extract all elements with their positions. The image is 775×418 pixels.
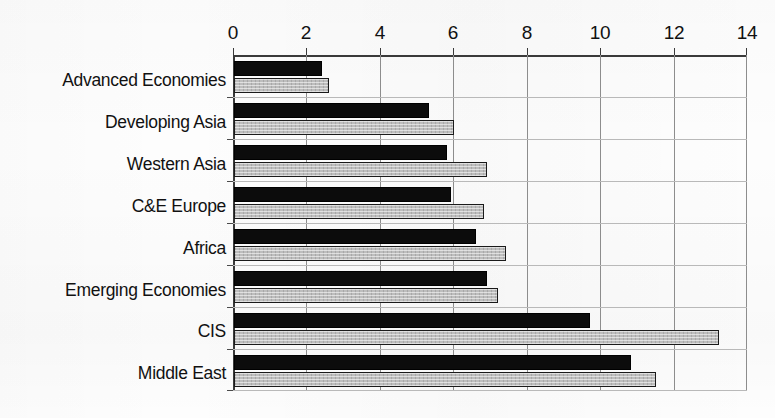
x-axis-line bbox=[233, 55, 747, 57]
row-separator bbox=[233, 307, 747, 308]
y-category-label: CIS bbox=[198, 321, 226, 341]
bar-2008-c-e-europe bbox=[234, 204, 484, 219]
bar-2007-cis bbox=[234, 313, 590, 328]
y-category-label: Emerging Economies bbox=[65, 280, 226, 300]
bar-2007-advanced-economies bbox=[234, 61, 322, 76]
x-tick-label: 12 bbox=[654, 22, 694, 44]
x-tick-label: 2 bbox=[286, 22, 326, 44]
y-tick-mark bbox=[227, 181, 233, 182]
y-axis-category-labels: Advanced Economies Developing Asia Weste… bbox=[0, 0, 226, 418]
bar-2008-emerging-economies bbox=[234, 288, 498, 303]
x-tick-mark bbox=[674, 48, 675, 55]
x-tick-mark bbox=[306, 48, 307, 55]
row-separator bbox=[233, 390, 747, 391]
bar-2007-western-asia bbox=[234, 145, 447, 160]
bar-2008-western-asia bbox=[234, 162, 487, 177]
y-tick-mark bbox=[227, 307, 233, 308]
bar-2007-c-e-europe bbox=[234, 187, 451, 202]
bar-chart: 0 2 4 6 8 10 12 14 Advanced Economies De… bbox=[0, 0, 775, 418]
x-tick-label: 10 bbox=[580, 22, 620, 44]
bar-2007-emerging-economies bbox=[234, 271, 487, 286]
y-tick-mark bbox=[227, 265, 233, 266]
bar-2007-developing-asia bbox=[234, 103, 429, 118]
y-tick-mark bbox=[227, 139, 233, 140]
y-category-label: Western Asia bbox=[127, 154, 226, 174]
bar-2008-cis bbox=[234, 330, 719, 345]
y-category-label: Advanced Economies bbox=[62, 70, 226, 90]
y-category-label: Developing Asia bbox=[105, 112, 226, 132]
x-tick-label: 6 bbox=[433, 22, 473, 44]
row-separator bbox=[233, 265, 747, 266]
bar-2008-developing-asia bbox=[234, 120, 454, 135]
x-tick-mark bbox=[233, 48, 234, 55]
x-tick-mark bbox=[600, 48, 601, 55]
y-category-label: C&E Europe bbox=[132, 196, 226, 216]
row-separator bbox=[233, 349, 747, 350]
row-separator bbox=[233, 139, 747, 140]
y-category-label: Middle East bbox=[138, 363, 226, 383]
plot-area: 2007 2008 bbox=[233, 55, 747, 391]
x-tick-label: 14 bbox=[727, 22, 767, 44]
row-separator bbox=[233, 181, 747, 182]
bar-2008-middle-east bbox=[234, 372, 656, 387]
y-tick-mark bbox=[227, 223, 233, 224]
row-separator bbox=[233, 97, 747, 98]
bar-2007-middle-east bbox=[234, 355, 631, 370]
y-category-label: Africa bbox=[183, 238, 226, 258]
x-tick-mark bbox=[527, 48, 528, 55]
y-tick-mark bbox=[227, 97, 233, 98]
bar-2008-africa bbox=[234, 246, 506, 261]
x-tick-label: 4 bbox=[360, 22, 400, 44]
x-tick-mark bbox=[380, 48, 381, 55]
x-tick-label: 8 bbox=[507, 22, 547, 44]
row-separator bbox=[233, 223, 747, 224]
bar-2008-advanced-economies bbox=[234, 78, 329, 93]
y-tick-mark bbox=[227, 349, 233, 350]
x-tick-mark bbox=[746, 48, 747, 55]
y-tick-mark bbox=[227, 390, 233, 391]
bar-2007-africa bbox=[234, 229, 476, 244]
x-tick-mark bbox=[453, 48, 454, 55]
